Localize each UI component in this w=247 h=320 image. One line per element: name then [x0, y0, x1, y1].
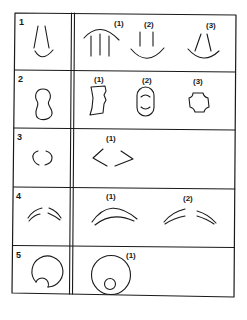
row-3-variant-1-label: (1) — [106, 135, 116, 143]
row-5-base-shape — [32, 256, 63, 287]
row-3-base-shape — [33, 151, 52, 165]
row-1-variant-1-label: (1) — [114, 20, 124, 28]
row-2-variant-3-shape — [189, 93, 209, 112]
row-1-number: 1 — [19, 18, 24, 27]
row-1-base-shape — [34, 26, 53, 57]
row-4-variant-1-label: (1) — [106, 193, 116, 201]
row-1-variant-3-label: (3) — [206, 22, 216, 30]
row-2-number: 2 — [18, 75, 23, 84]
row-5-number: 5 — [16, 251, 21, 260]
row-4-base-shape — [28, 208, 61, 221]
row-4-variant-1-shape — [92, 208, 137, 225]
row-3-number: 3 — [17, 133, 22, 142]
row-2-variant-1-label: (1) — [94, 76, 104, 84]
row-4-variant-2-label: (2) — [183, 195, 193, 203]
row-1-variant-3-shape — [188, 34, 219, 58]
row-2-variant-2-label: (2) — [142, 77, 152, 85]
table-graphic — [0, 0, 247, 320]
shape-variant-table: 1 2 3 4 5 (1) (2) (3) (1) (2) (3) (1) (1… — [0, 0, 247, 320]
row-2-variant-1-shape — [90, 86, 106, 115]
row-1-variant-2-label: (2) — [144, 21, 154, 29]
row-4-variant-2-shape — [164, 209, 216, 224]
row-1-variant-1-shape — [84, 29, 119, 56]
row-5-variant-1-shape — [92, 256, 131, 295]
row-2-variant-3-label: (3) — [193, 78, 203, 86]
row-2-variant-2-shape — [137, 87, 154, 116]
row-1-variant-2-shape — [131, 32, 164, 58]
row-3-variant-1-shape — [93, 149, 133, 166]
row-2-base-shape — [36, 89, 52, 120]
row-5-variant-1-label: (1) — [126, 252, 136, 260]
row-4-number: 4 — [16, 192, 21, 201]
